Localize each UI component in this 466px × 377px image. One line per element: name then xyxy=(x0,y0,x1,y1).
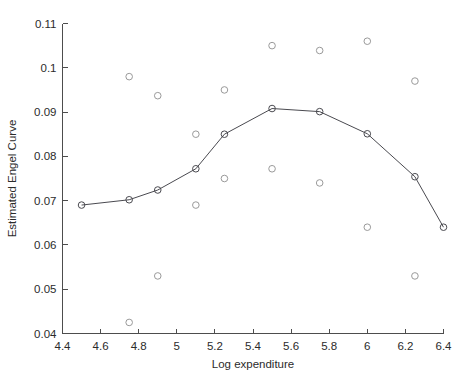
y-tick-label: 0.07 xyxy=(34,195,56,207)
y-tick-label: 0.11 xyxy=(35,18,57,30)
scatter-point xyxy=(412,78,419,85)
scatter-point xyxy=(269,165,276,172)
scatter-series xyxy=(126,38,418,326)
scatter-point xyxy=(364,224,371,231)
x-tick-label: 5 xyxy=(174,340,180,352)
x-tick-label: 4.8 xyxy=(131,340,147,352)
scatter-point xyxy=(364,38,371,45)
engel-curve-figure: 0.040.050.060.070.080.090.10.114.44.64.8… xyxy=(0,0,466,377)
x-tick-label: 5.4 xyxy=(245,340,262,352)
scatter-point xyxy=(316,180,323,187)
chart-canvas: 0.040.050.060.070.080.090.10.114.44.64.8… xyxy=(0,0,466,377)
scatter-point xyxy=(193,131,200,138)
scatter-point xyxy=(221,175,228,182)
axis-frame xyxy=(63,24,444,334)
x-tick-label: 6.4 xyxy=(436,340,453,352)
y-tick-label: 0.04 xyxy=(34,328,57,340)
scatter-point xyxy=(316,47,323,54)
scatter-point xyxy=(154,92,161,99)
scatter-point xyxy=(126,319,133,326)
x-tick-label: 5.6 xyxy=(283,340,299,352)
y-tick-label: 0.06 xyxy=(34,239,56,251)
scatter-point xyxy=(221,87,228,94)
y-tick-label: 0.1 xyxy=(41,62,57,74)
scatter-point xyxy=(412,273,419,280)
y-tick-label: 0.05 xyxy=(34,283,56,295)
x-axis-title: Log expenditure xyxy=(212,358,294,370)
engel-curve-line xyxy=(82,109,444,228)
x-tick-label: 4.4 xyxy=(55,340,72,352)
x-tick-label: 6 xyxy=(364,340,370,352)
scatter-point xyxy=(154,273,161,280)
line-series xyxy=(78,105,447,230)
scatter-point xyxy=(193,202,200,209)
axes: 0.040.050.060.070.080.090.10.114.44.64.8… xyxy=(34,18,452,352)
x-tick-label: 5.2 xyxy=(207,340,223,352)
y-tick-label: 0.08 xyxy=(34,150,56,162)
x-tick-label: 5.8 xyxy=(321,340,337,352)
y-axis-title: Estimated Engel Curve xyxy=(6,120,18,238)
x-tick-label: 4.6 xyxy=(93,340,109,352)
y-tick-label: 0.09 xyxy=(34,106,56,118)
x-tick-label: 6.2 xyxy=(397,340,413,352)
scatter-point xyxy=(269,42,276,49)
scatter-point xyxy=(126,73,133,80)
